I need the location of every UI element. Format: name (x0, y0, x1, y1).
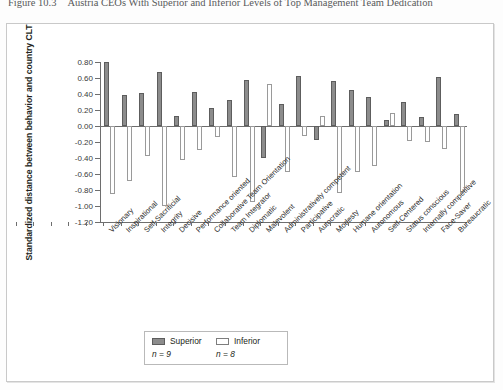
bar-inf (197, 126, 202, 150)
bar-group (327, 62, 344, 222)
legend-item-inferior: Inferior (216, 336, 280, 346)
bar-sup (104, 62, 109, 126)
legend-swatch-superior (152, 338, 165, 345)
chart-frame: Standardized distance between behavior a… (6, 23, 494, 382)
bar-sup (279, 104, 284, 126)
figure-title: Austria CEOs With Superior and Inferior … (67, 0, 432, 9)
bar-sup (192, 92, 197, 126)
x-axis-tick (51, 222, 52, 226)
x-axis-tick (208, 222, 209, 226)
bar-inf (162, 126, 167, 206)
bar-inf (442, 126, 447, 149)
x-axis-tick (243, 222, 244, 226)
bar-inf (460, 126, 465, 192)
bar-sup (174, 116, 179, 126)
y-axis-tick-label: -1.00 (75, 202, 93, 211)
bar-sup (436, 77, 441, 126)
bar-group (205, 62, 222, 222)
x-axis-tick (278, 222, 279, 226)
bar-inf (127, 126, 132, 181)
x-axis-tick (68, 222, 69, 226)
legend-n-superior: n = 9 (152, 349, 216, 359)
bar-group (135, 62, 152, 222)
bar-inf (320, 116, 325, 126)
bar-sup (296, 76, 301, 126)
x-axis-tick (295, 222, 296, 226)
x-axis-tick (348, 222, 349, 226)
bar-inf (355, 126, 360, 172)
figure-page: Figure 10.3 Austria CEOs With Superior a… (0, 0, 503, 390)
bar-series-container (100, 62, 467, 222)
bar-inf (407, 126, 412, 141)
y-axis-tick-label: 0.80 (77, 58, 93, 67)
figure-number: Figure 10.3 (8, 0, 56, 9)
bar-sup (384, 120, 389, 126)
bar-sup (331, 81, 336, 126)
y-axis-tick-label: -0.80 (75, 186, 93, 195)
y-axis-title: Standardized distance between behavior a… (21, 62, 37, 222)
legend-label-superior: Superior (170, 336, 202, 346)
bar-group (362, 62, 379, 222)
bar-sup (401, 102, 406, 126)
x-axis-tick (86, 222, 87, 226)
figure-caption: Figure 10.3 Austria CEOs With Superior a… (8, 0, 496, 9)
bar-inf (232, 126, 237, 177)
bar-group (275, 62, 292, 222)
bar-sup (419, 117, 424, 126)
x-axis-tick (330, 222, 331, 226)
bar-inf (390, 113, 395, 126)
x-axis-tick (16, 222, 17, 226)
legend-item-superior: Superior (152, 336, 216, 346)
chart-legend: Superior Inferior n = 9 n = 8 (144, 331, 288, 365)
bar-sup (261, 126, 266, 158)
legend-swatch-inferior (216, 338, 229, 345)
bar-sup (157, 72, 162, 126)
bar-inf (110, 126, 115, 194)
legend-label-inferior: Inferior (234, 336, 260, 346)
bar-sup (454, 114, 459, 126)
y-axis-tick-label: 0.60 (77, 74, 93, 83)
x-axis-tick (138, 222, 139, 226)
y-axis-tick-label: 0.00 (77, 122, 93, 131)
bar-group (100, 62, 117, 222)
y-axis-tick-label: 0.20 (77, 106, 93, 115)
bar-inf (180, 126, 185, 160)
y-axis-tick-label: 0.40 (77, 90, 93, 99)
x-axis-tick (173, 222, 174, 226)
bar-sup (366, 97, 371, 126)
x-axis-tick (365, 222, 366, 226)
y-axis-tick-label: -1.20 (75, 218, 93, 227)
bar-inf (302, 126, 307, 136)
bar-inf (215, 126, 220, 137)
bar-sup (122, 95, 127, 126)
x-axis-tick (103, 222, 104, 226)
bar-inf (145, 126, 150, 156)
bar-sup (227, 100, 232, 126)
bar-sup (139, 93, 144, 126)
x-axis-tick (191, 222, 192, 226)
bar-sup (314, 126, 319, 140)
bar-inf (372, 126, 377, 166)
bar-group (292, 62, 309, 222)
bar-group (345, 62, 362, 222)
bar-inf (425, 126, 430, 142)
x-axis-tick (260, 222, 261, 226)
bar-inf (267, 84, 272, 126)
bar-sup (349, 90, 354, 126)
bar-sup (209, 108, 214, 126)
x-axis-tick (33, 222, 34, 226)
x-axis-tick (313, 222, 314, 226)
x-axis-tick (225, 222, 226, 226)
legend-n-inferior: n = 8 (216, 349, 280, 359)
bar-group (152, 62, 169, 222)
y-axis-tick-label: -0.20 (75, 138, 93, 147)
bar-group (187, 62, 204, 222)
bar-sup (244, 80, 249, 126)
y-axis-tick-label: -0.60 (75, 170, 93, 179)
y-axis-tick-label: -0.40 (75, 154, 93, 163)
x-axis-tick (121, 222, 122, 226)
bar-group (117, 62, 134, 222)
x-axis-tick (156, 222, 157, 226)
